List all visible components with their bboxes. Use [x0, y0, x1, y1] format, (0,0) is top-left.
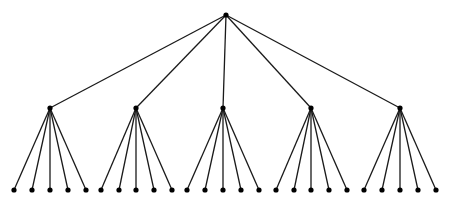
- leaf-node: [151, 187, 156, 192]
- edge-root-to-node-2: [136, 15, 226, 108]
- edge-node-3-to-leaf-5: [223, 108, 259, 190]
- edge-root-to-node-5: [226, 15, 400, 108]
- edge-node-1-to-leaf-5: [50, 108, 86, 190]
- edge-node-4-to-leaf-4: [311, 108, 329, 190]
- leaf-node: [326, 187, 331, 192]
- edge-root-to-node-4: [226, 15, 311, 108]
- leaf-node: [415, 187, 420, 192]
- leaf-node: [238, 187, 243, 192]
- edge-node-1-to-leaf-4: [50, 108, 68, 190]
- middle-node: [47, 105, 52, 110]
- leaf-node: [256, 187, 261, 192]
- leaf-node: [98, 187, 103, 192]
- leaf-node: [169, 187, 174, 192]
- edge-node-1-to-leaf-1: [14, 108, 50, 190]
- edge-node-1-to-leaf-2: [32, 108, 50, 190]
- middle-node: [133, 105, 138, 110]
- leaf-node: [308, 187, 313, 192]
- leaf-node: [291, 187, 296, 192]
- edge-node-2-to-leaf-5: [136, 108, 172, 190]
- edge-node-5-to-leaf-1: [364, 108, 400, 190]
- leaf-node: [83, 187, 88, 192]
- leaf-node: [11, 187, 16, 192]
- middle-node: [220, 105, 225, 110]
- leaf-node: [133, 187, 138, 192]
- leaf-node: [184, 187, 189, 192]
- leaf-node: [344, 187, 349, 192]
- leaf-node: [202, 187, 207, 192]
- leaf-node: [220, 187, 225, 192]
- middle-node: [308, 105, 313, 110]
- edge-node-5-to-leaf-4: [400, 108, 418, 190]
- leaf-node: [116, 187, 121, 192]
- tree-diagram: [0, 0, 452, 221]
- edge-node-3-to-leaf-4: [223, 108, 241, 190]
- edge-node-2-to-leaf-2: [119, 108, 136, 190]
- leaf-node: [29, 187, 34, 192]
- leaf-node: [273, 187, 278, 192]
- leaf-node: [379, 187, 384, 192]
- root-node: [223, 12, 228, 17]
- edge-node-2-to-leaf-1: [101, 108, 136, 190]
- middle-node: [397, 105, 402, 110]
- leaf-node: [47, 187, 52, 192]
- leaf-node: [361, 187, 366, 192]
- leaf-node: [397, 187, 402, 192]
- edge-root-to-node-3: [223, 15, 226, 108]
- edge-root-to-node-1: [50, 15, 226, 108]
- edges: [14, 15, 436, 190]
- edge-node-5-to-leaf-5: [400, 108, 436, 190]
- edge-node-5-to-leaf-2: [382, 108, 400, 190]
- edge-node-3-to-leaf-2: [205, 108, 223, 190]
- edge-node-3-to-leaf-1: [187, 108, 223, 190]
- leaf-node: [65, 187, 70, 192]
- edge-node-4-to-leaf-1: [276, 108, 311, 190]
- edge-node-4-to-leaf-5: [311, 108, 347, 190]
- edge-node-4-to-leaf-2: [294, 108, 311, 190]
- leaf-node: [433, 187, 438, 192]
- edge-node-2-to-leaf-4: [136, 108, 154, 190]
